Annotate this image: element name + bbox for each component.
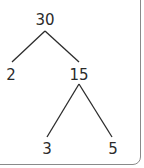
factor-tree: 30 2 15 3 5	[0, 0, 144, 168]
edge-30-2	[12, 31, 45, 62]
node-right-right: 5	[108, 140, 118, 158]
node-left: 2	[6, 66, 16, 84]
node-right-left: 3	[42, 140, 52, 158]
edge-15-3	[47, 84, 79, 137]
edge-30-15	[45, 31, 79, 62]
node-root: 30	[35, 11, 54, 29]
node-right: 15	[69, 66, 88, 84]
edge-15-5	[79, 84, 112, 137]
